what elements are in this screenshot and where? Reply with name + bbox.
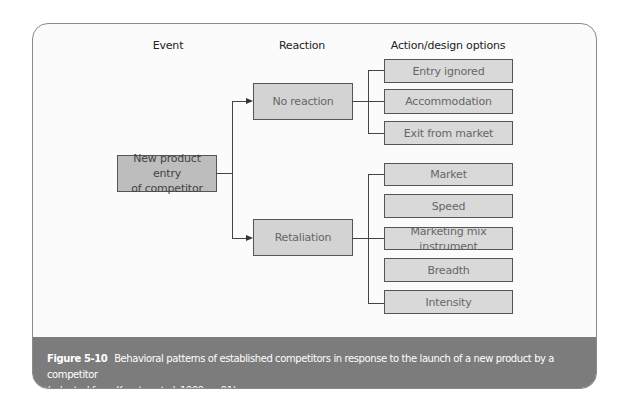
caption-source-italic: et al. xyxy=(154,385,177,389)
option-box: Marketing mix instrument xyxy=(384,227,513,250)
option-label: Market xyxy=(430,167,467,182)
figure-card: Event Reaction Action/design options New… xyxy=(32,23,597,389)
connector-to-no-reaction xyxy=(232,101,246,102)
option-box: Exit from market xyxy=(384,121,513,145)
caption-text: Behavioral patterns of established compe… xyxy=(47,353,554,380)
connector-trunk xyxy=(232,101,233,239)
caption-source-suffix: 1999, p. 91) xyxy=(177,385,236,389)
header-action-options: Action/design options xyxy=(391,39,505,52)
connector-event-trunk xyxy=(216,173,232,174)
caption-line-2: (adapted from Kuester et al. 1999, p. 91… xyxy=(47,383,596,389)
bracket-tick xyxy=(368,174,384,175)
option-label: Speed xyxy=(432,199,465,214)
reaction-box-retaliation: Retaliation xyxy=(253,219,353,256)
option-box: Speed xyxy=(384,194,513,218)
header-event: Event xyxy=(153,39,184,52)
arrow-right-icon xyxy=(246,98,253,104)
bracket-tick xyxy=(368,101,384,102)
reaction-label: No reaction xyxy=(272,94,333,109)
event-box: New product entry of competitor xyxy=(117,155,217,192)
connector-no-reaction-bracket xyxy=(352,101,368,102)
arrow-right-icon xyxy=(246,235,253,241)
option-label: Breadth xyxy=(427,263,469,278)
option-box: Breadth xyxy=(384,258,513,282)
reaction-box-no-reaction: No reaction xyxy=(253,83,353,120)
figure-caption: Figure 5-10 Behavioral patterns of estab… xyxy=(33,337,596,388)
bracket-tick xyxy=(368,238,384,239)
option-box: Accommodation xyxy=(384,89,513,114)
option-label: Intensity xyxy=(425,295,471,310)
event-line-2: of competitor xyxy=(131,181,203,196)
bracket-tick xyxy=(368,70,384,71)
connector-to-retaliation xyxy=(232,238,246,239)
header-reaction: Reaction xyxy=(279,39,325,52)
option-box: Intensity xyxy=(384,290,513,314)
caption-line-1: Figure 5-10 Behavioral patterns of estab… xyxy=(47,351,596,383)
event-line-1: New product entry xyxy=(118,151,216,181)
caption-source-prefix: (adapted from Kuester xyxy=(47,385,154,389)
option-label: Marketing mix instrument xyxy=(385,224,512,254)
option-label: Exit from market xyxy=(404,126,493,141)
option-label: Entry ignored xyxy=(413,64,485,79)
option-box: Entry ignored xyxy=(384,59,513,83)
reaction-label: Retaliation xyxy=(275,230,332,245)
bracket-tick xyxy=(368,133,384,134)
figure-label: Figure 5-10 xyxy=(47,353,107,364)
bracket-tick xyxy=(368,303,384,304)
connector-retaliation-bracket xyxy=(352,238,368,239)
option-box: Market xyxy=(384,163,513,186)
option-label: Accommodation xyxy=(405,94,492,109)
